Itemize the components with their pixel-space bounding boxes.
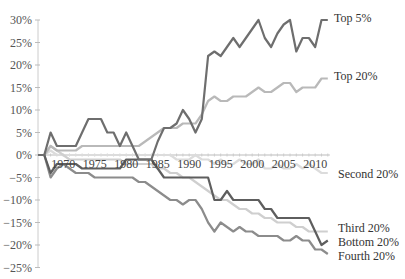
series-line-top-5- — [38, 20, 328, 160]
series-label: Top 5% — [334, 11, 372, 25]
series-label: Fourth 20% — [338, 249, 395, 263]
x-tick-label: 1995 — [209, 157, 233, 171]
y-tick-label: 0% — [16, 148, 32, 162]
axes: 30%25%20%15%10%5%0%−5%−10%−15%−20%−25% — [3, 13, 330, 275]
y-tick-label: −15% — [3, 216, 32, 230]
x-tick-label: 1970 — [51, 157, 75, 171]
x-tick-label: 1990 — [177, 157, 201, 171]
x-tick-label: 2000 — [240, 157, 264, 171]
series-label: Second 20% — [338, 167, 398, 181]
x-tick-label: 1985 — [146, 157, 170, 171]
y-tick-label: −25% — [3, 261, 32, 275]
series-label: Bottom 20% — [338, 235, 399, 249]
x-tick-label: 2005 — [272, 157, 296, 171]
y-tick-label: 20% — [10, 58, 32, 72]
series-line-top-20- — [38, 79, 328, 156]
series-lines — [38, 20, 328, 254]
line-chart: 30%25%20%15%10%5%0%−5%−10%−15%−20%−25% T… — [0, 0, 405, 279]
x-tick-label: 2010 — [303, 157, 327, 171]
y-tick-label: 25% — [10, 36, 32, 50]
series-labels: Top 5%Top 20%Second 20%Third 20%Bottom 2… — [334, 11, 399, 263]
y-tick-label: −5% — [9, 171, 32, 185]
y-tick-label: 5% — [16, 126, 32, 140]
y-tick-label: −10% — [3, 193, 32, 207]
y-tick-label: −20% — [3, 238, 32, 252]
series-label: Third 20% — [338, 221, 390, 235]
series-label: Top 20% — [334, 69, 378, 83]
y-tick-label: 15% — [10, 81, 32, 95]
x-tick-label: 1980 — [114, 157, 138, 171]
y-tick-label: 30% — [10, 13, 32, 27]
x-tick-label: 1975 — [83, 157, 107, 171]
y-tick-label: 10% — [10, 103, 32, 117]
